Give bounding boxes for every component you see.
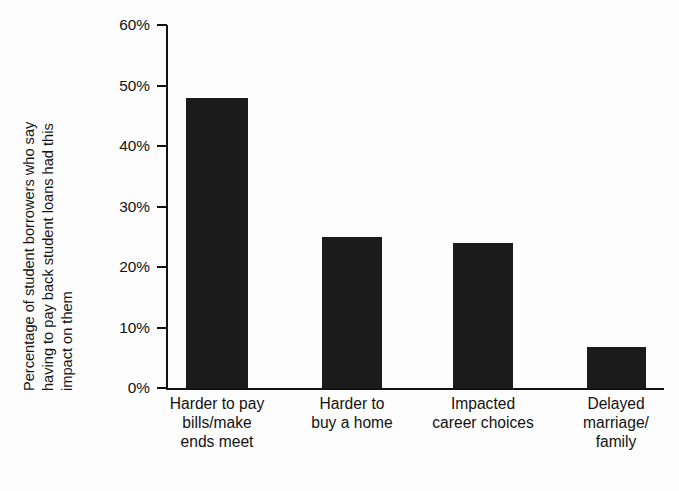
category-label-line: Delayed [526, 394, 679, 413]
y-tick-mark-50 [157, 85, 167, 87]
y-tick-mark-10 [157, 327, 167, 329]
y-tick-label-20: 20% [94, 259, 150, 274]
bar-2[interactable] [322, 237, 382, 388]
category-label-line: ends meet [127, 432, 307, 451]
y-tick-label-60: 60% [94, 17, 150, 32]
x-axis-line [166, 388, 664, 390]
y-tick-mark-0 [157, 387, 167, 389]
y-tick-label-30: 30% [94, 199, 150, 214]
y-axis-title-line-3: impact on them [59, 291, 75, 391]
y-tick-mark-30 [157, 206, 167, 208]
y-tick-label-50: 50% [94, 78, 150, 93]
y-tick-label-10: 10% [94, 320, 150, 335]
y-axis-title: Percentage of student borrowers who say … [0, 0, 86, 400]
plot-area [166, 25, 666, 388]
y-tick-mark-20 [157, 266, 167, 268]
bar-4[interactable] [587, 347, 646, 388]
y-tick-mark-60 [157, 24, 167, 26]
y-tick-mark-40 [157, 145, 167, 147]
category-label-4: Delayedmarriage/family [526, 394, 679, 451]
bar-chart: Percentage of student borrowers who say … [0, 0, 679, 491]
bar-1[interactable] [186, 98, 248, 388]
bar-3[interactable] [453, 243, 513, 388]
x-axis-category-labels: Harder to paybills/makeends meetHarder t… [166, 394, 666, 489]
y-axis-title-line-2: having to pay back student loans had thi… [40, 123, 56, 391]
y-axis-title-line-1: Percentage of student borrowers who say [21, 122, 37, 391]
category-label-line: family [526, 432, 679, 451]
y-tick-label-40: 40% [94, 138, 150, 153]
category-label-line: marriage/ [526, 413, 679, 432]
